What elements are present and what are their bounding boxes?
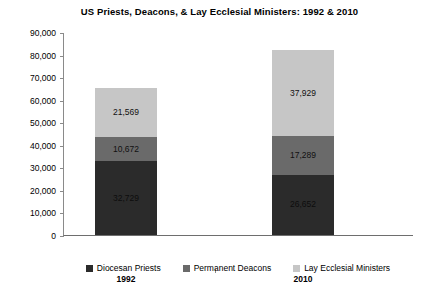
bar-segment[interactable]: 26,652 <box>272 175 334 235</box>
legend-label: Permanent Deacons <box>194 264 272 273</box>
y-axis-tick-mark <box>60 213 64 214</box>
legend-swatch-icon <box>293 265 300 272</box>
y-axis-tick-label: 20,000 <box>2 187 56 195</box>
bar-value-label: 17,289 <box>290 151 316 160</box>
x-axis-category-label: 1992 <box>66 274 186 284</box>
chart-title: US Priests, Deacons, & Lay Ecclesial Min… <box>0 6 439 17</box>
legend-label: Lay Ecclesial Ministers <box>304 264 390 273</box>
y-axis-tick-label: 30,000 <box>2 164 56 172</box>
bar-value-label: 21,569 <box>113 108 139 117</box>
legend-label: Diocesan Priests <box>97 264 161 273</box>
y-axis-tick-label: 70,000 <box>2 74 56 82</box>
legend-item[interactable]: Lay Ecclesial Ministers <box>293 264 390 273</box>
y-axis-tick-mark <box>60 146 64 147</box>
legend-swatch-icon <box>86 265 93 272</box>
y-axis-tick-label: 50,000 <box>2 119 56 127</box>
legend-item[interactable]: Permanent Deacons <box>183 264 272 273</box>
bar-value-label: 10,672 <box>113 145 139 154</box>
y-axis-tick-label: 40,000 <box>2 142 56 150</box>
bar-group-1992[interactable]: 21,56910,67232,729 <box>95 88 157 235</box>
bar-value-label: 32,729 <box>113 194 139 203</box>
bar-segment[interactable]: 32,729 <box>95 161 157 235</box>
bar-group-2010[interactable]: 37,92917,28926,652 <box>272 50 334 235</box>
legend-item[interactable]: Diocesan Priests <box>86 264 161 273</box>
y-axis-tick-mark <box>60 123 64 124</box>
bar-value-label: 37,929 <box>290 89 316 98</box>
y-axis-tick-mark <box>60 33 64 34</box>
bar-segment[interactable]: 10,672 <box>95 137 157 161</box>
bar-value-label: 26,652 <box>290 200 316 209</box>
y-axis-tick-label: 0 <box>2 232 56 240</box>
x-axis-category-label: 2010 <box>243 274 363 284</box>
plot-area: 010,00020,00030,00040,00050,00060,00070,… <box>63 33 413 236</box>
y-axis-tick-label: 90,000 <box>2 29 56 37</box>
y-axis-tick-mark <box>60 168 64 169</box>
legend-swatch-icon <box>183 265 190 272</box>
y-axis-tick-mark <box>60 56 64 57</box>
stacked-bar-chart: US Priests, Deacons, & Lay Ecclesial Min… <box>0 0 439 297</box>
y-axis-tick-mark <box>60 191 64 192</box>
chart-legend: Diocesan PriestsPermanent DeaconsLay Ecc… <box>63 264 413 273</box>
y-axis-tick-label: 80,000 <box>2 52 56 60</box>
bar-segment[interactable]: 37,929 <box>272 50 334 136</box>
y-axis-tick-label: 60,000 <box>2 97 56 105</box>
y-axis-tick-mark <box>60 236 64 237</box>
bar-segment[interactable]: 17,289 <box>272 136 334 175</box>
bar-segment[interactable]: 21,569 <box>95 88 157 137</box>
y-axis-tick-label: 10,000 <box>2 209 56 217</box>
y-axis-tick-mark <box>60 101 64 102</box>
y-axis-tick-mark <box>60 78 64 79</box>
